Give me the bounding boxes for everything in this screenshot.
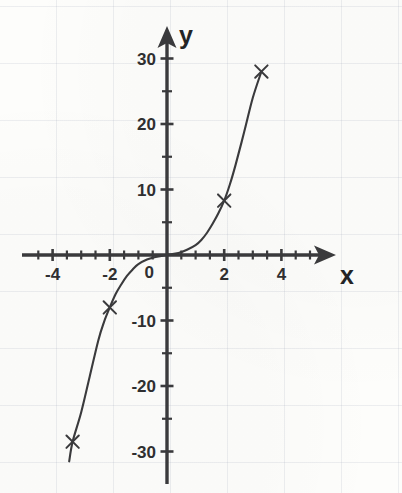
y-tick-label: 10 — [137, 182, 156, 199]
x-tick-label: 2 — [219, 266, 228, 283]
axes-layer — [22, 26, 336, 484]
data-point-marker — [218, 194, 230, 206]
x-tick-label: 4 — [277, 266, 286, 283]
data-point-marker — [255, 65, 267, 77]
function-curve — [69, 72, 261, 462]
x-tick-label: -2 — [102, 266, 117, 283]
x-axis-label: x — [340, 263, 354, 288]
y-tick-label: 20 — [137, 116, 156, 133]
y-tick-label: 30 — [137, 51, 156, 68]
x-tick-label: -4 — [45, 266, 60, 283]
y-tick-label: -30 — [131, 444, 156, 461]
graph-figure: -4-2024302010-10-20-30 x y — [0, 0, 402, 493]
y-axis-label: y — [179, 23, 193, 48]
x-tick-label-origin: 0 — [145, 264, 154, 281]
data-point-marker — [104, 301, 116, 313]
curve-layer — [69, 72, 261, 462]
cubic-plot — [0, 0, 402, 493]
y-tick-label: -10 — [131, 313, 156, 330]
y-tick-label: -20 — [131, 378, 156, 395]
